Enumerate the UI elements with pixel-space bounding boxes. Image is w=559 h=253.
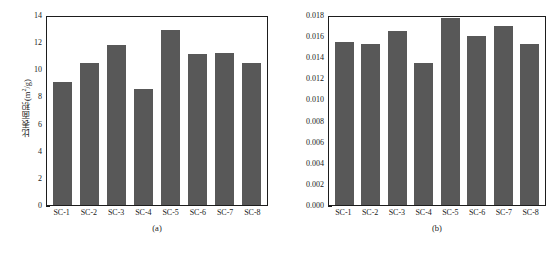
x-tick-label: SC-6: [185, 208, 210, 217]
y-tick-label: 0.002: [306, 181, 324, 189]
x-tick-label: SC-8: [518, 208, 543, 217]
chart-panel-b: 孔隙体积(cm3/g) 0.0000.0020.0040.0060.0080.0…: [280, 0, 559, 253]
y-tick-label: 0.004: [306, 160, 324, 168]
y-tick-label: 0.000: [306, 202, 324, 210]
y-tick-label: 0.016: [306, 33, 324, 41]
bar: [107, 45, 126, 205]
x-tick-label: SC-7: [213, 208, 238, 217]
y-tick-label: 0.006: [306, 139, 324, 147]
x-tick-label: SC-2: [76, 208, 101, 217]
y-tick-mark: [46, 206, 50, 207]
x-tick-label: SC-5: [158, 208, 183, 217]
bar: [467, 36, 486, 205]
bar: [520, 44, 539, 206]
x-axis-ticks-b: SC-1SC-2SC-3SC-4SC-5SC-6SC-7SC-8: [328, 208, 546, 217]
y-tick-label: 10: [34, 66, 42, 74]
bar-series-b: [329, 17, 545, 205]
plot-area-b: [328, 16, 546, 206]
x-tick-label: SC-3: [384, 208, 409, 217]
bar: [242, 63, 261, 206]
x-tick-label: SC-1: [331, 208, 356, 217]
y-axis-ticks-b: 0.0000.0020.0040.0060.0080.0100.0120.014…: [280, 16, 328, 206]
x-tick-label: SC-4: [411, 208, 436, 217]
bar: [134, 89, 153, 205]
y-tick-label: 8: [38, 93, 42, 101]
x-tick-label: SC-7: [491, 208, 516, 217]
bar: [494, 26, 513, 205]
y-tick-label: 6: [38, 121, 42, 129]
y-axis-ticks-a: 02468101214: [0, 16, 46, 206]
y-tick-label: 0.014: [306, 54, 324, 62]
x-tick-label: SC-3: [104, 208, 129, 217]
plot-area-a: [46, 16, 268, 206]
bar: [414, 63, 433, 206]
bar: [161, 30, 180, 205]
y-tick-mark: [328, 206, 332, 207]
bar: [188, 54, 207, 205]
y-tick-label: 0.012: [306, 75, 324, 83]
y-tick-label: 2: [38, 175, 42, 183]
bar: [361, 44, 380, 206]
y-tick-label: 0: [38, 202, 42, 210]
bar-series-a: [47, 17, 267, 205]
x-tick-label: SC-8: [240, 208, 265, 217]
x-axis-ticks-a: SC-1SC-2SC-3SC-4SC-5SC-6SC-7SC-8: [46, 208, 268, 217]
y-tick-label: 0.018: [306, 12, 324, 20]
bar: [441, 18, 460, 205]
figure-container: 比表面积(m2/g) 02468101214 SC-1SC-2SC-3SC-4S…: [0, 0, 559, 253]
y-tick-label: 12: [34, 39, 42, 47]
x-tick-label: SC-4: [131, 208, 156, 217]
y-tick-label: 14: [34, 12, 42, 20]
y-tick-label: 0.008: [306, 118, 324, 126]
x-tick-label: SC-6: [465, 208, 490, 217]
x-tick-label: SC-2: [358, 208, 383, 217]
y-tick-label: 4: [38, 148, 42, 156]
bar: [53, 82, 72, 206]
bar: [215, 53, 234, 205]
x-tick-label: SC-5: [438, 208, 463, 217]
chart-panel-a: 比表面积(m2/g) 02468101214 SC-1SC-2SC-3SC-4S…: [0, 0, 280, 253]
bar: [335, 42, 354, 205]
x-tick-label: SC-1: [49, 208, 74, 217]
y-tick-label: 0.010: [306, 96, 324, 104]
panel-caption-a: (a): [46, 223, 268, 233]
bar: [80, 63, 99, 205]
bar: [388, 31, 407, 205]
panel-caption-b: (b): [328, 223, 546, 233]
